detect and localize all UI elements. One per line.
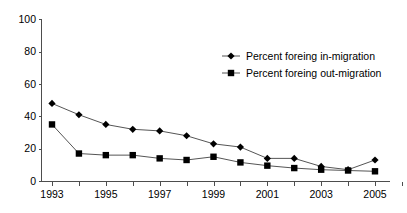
y-tick-label: 0 [30, 175, 36, 187]
migration-line-chart: 020406080100 199319951997199920012003200… [0, 0, 407, 213]
y-tick-label: 80 [24, 45, 36, 57]
y-tick-label: 40 [24, 110, 36, 122]
data-point-marker-square [237, 159, 243, 165]
data-point-marker-square [130, 152, 136, 158]
y-tick-label: 100 [18, 13, 36, 25]
data-point-marker-square [372, 168, 378, 174]
x-tick-label: 1995 [94, 188, 118, 200]
data-point-marker-square [49, 121, 55, 127]
y-tick-label: 20 [24, 142, 36, 154]
data-point-marker-square [291, 165, 297, 171]
x-tick-label: 1993 [40, 188, 64, 200]
y-tick-label: 60 [24, 78, 36, 90]
x-tick-label: 2005 [363, 188, 387, 200]
legend-label: Percent foreing out-migration [246, 67, 382, 79]
chart-container: 020406080100 199319951997199920012003200… [0, 0, 407, 213]
data-point-marker-square [318, 166, 324, 172]
x-tick-label: 1999 [202, 188, 226, 200]
x-tick-label: 1997 [148, 188, 172, 200]
data-point-marker-square [76, 150, 82, 156]
data-point-marker-square [103, 152, 109, 158]
data-point-marker-square [183, 157, 189, 163]
data-point-marker-square [345, 167, 351, 173]
x-tick-label: 2003 [309, 188, 333, 200]
legend-label: Percent foreing in-migration [246, 50, 375, 62]
data-point-marker-square [210, 154, 216, 160]
legend-marker-square [228, 70, 234, 76]
data-point-marker-square [264, 162, 270, 168]
x-tick-label: 2001 [256, 188, 280, 200]
data-point-marker-square [156, 155, 162, 161]
